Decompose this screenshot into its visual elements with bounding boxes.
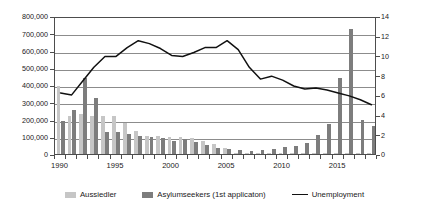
chart-container: 0100,000200,000300,000400,000500,000600,…: [0, 0, 429, 213]
x-axis-tick-label: 1990: [51, 162, 68, 170]
unemployment-line: [55, 18, 377, 156]
legend-item-label: Unemployment: [312, 190, 364, 199]
y-axis-right-tick-label: 2: [381, 132, 405, 139]
y-axis-right-tick-label: 12: [381, 33, 405, 40]
legend-swatch-square-icon: [65, 192, 76, 198]
y-axis-left-tick-label: 600,000: [0, 48, 48, 55]
x-axis-tick-label: 2010: [273, 162, 290, 170]
y-axis-left-tick-label: 400,000: [0, 82, 48, 89]
x-axis-tick-label: 2005: [218, 162, 235, 170]
legend-item: Asylumseekers (1st applicaton): [142, 190, 265, 199]
y-axis-right-tick-label: 0: [381, 151, 405, 158]
y-axis-right-tick-label: 6: [381, 92, 405, 99]
legend-item-label: Asylumseekers (1st applicaton): [157, 190, 265, 199]
x-axis-tick-label: 1995: [107, 162, 124, 170]
legend-item-label: Aussiedler: [80, 190, 116, 199]
legend-swatch-line-icon: [292, 194, 308, 195]
x-axis-tick-label: 2015: [329, 162, 346, 170]
unemployment-polyline: [61, 41, 372, 105]
y-axis-left-tick-label: 500,000: [0, 65, 48, 72]
y-axis-left-tick-label: 0: [0, 151, 48, 158]
x-axis-tick-label: 2000: [162, 162, 179, 170]
y-axis-left-tick-label: 100,000: [0, 134, 48, 141]
y-axis-right-tick-label: 10: [381, 53, 405, 60]
y-axis-right-tick-label: 4: [381, 112, 405, 119]
legend-item: Unemployment: [292, 190, 364, 199]
y-axis-left-tick-label: 300,000: [0, 100, 48, 107]
legend-swatch-square-icon: [142, 192, 153, 198]
y-axis-left-tick-label: 200,000: [0, 117, 48, 124]
plot-area: [54, 17, 376, 155]
legend-item: Aussiedler: [65, 190, 116, 199]
chart-legend: AussiedlerAsylumseekers (1st applicaton)…: [0, 190, 429, 199]
y-axis-right-tick-label: 14: [381, 13, 405, 20]
y-axis-left-tick-label: 800,000: [0, 13, 48, 20]
y-axis-left-tick-label: 700,000: [0, 31, 48, 38]
y-axis-right-tick-label: 8: [381, 73, 405, 80]
